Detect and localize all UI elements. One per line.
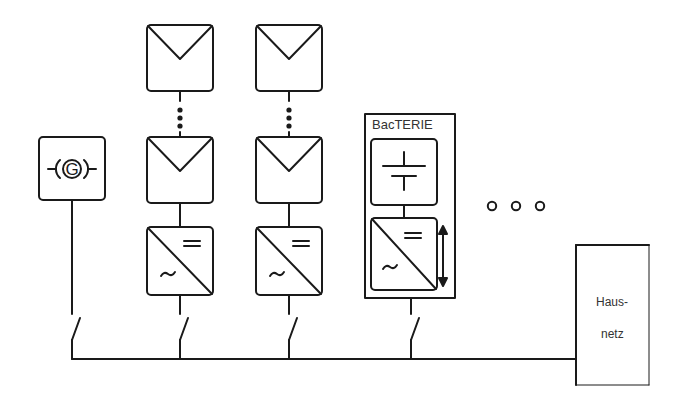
solar-panel-icon [256,25,322,91]
generator-label: G [65,160,78,179]
solar-panel-icon [147,25,213,91]
vertical-dots-icon [177,107,182,128]
house-grid-label-line1: Haus- [596,295,628,309]
switch-pv-1 [180,318,188,359]
bidirectional-inverter-icon [371,218,437,290]
switch-battery [411,318,419,359]
double-arrow-icon [439,226,447,286]
battery-system-title: BacTERIE [372,117,433,132]
pv-string-1 [147,25,213,359]
battery-icon [371,139,437,205]
switch-generator [72,318,80,359]
dc-ac-inverter-icon [147,227,213,295]
house-grid-box [576,245,649,385]
diagram-canvas: G [0,0,693,410]
dc-ac-inverter-icon [256,227,322,295]
more-indicator-icon [488,202,544,210]
battery-system [365,114,455,359]
house-grid-label-line2: netz [601,327,624,341]
switch-pv-2 [289,318,297,359]
pv-string-2 [256,25,322,359]
solar-panel-icon [256,137,322,203]
solar-panel-icon [147,137,213,203]
vertical-dots-icon [286,107,291,128]
